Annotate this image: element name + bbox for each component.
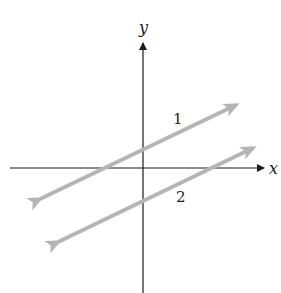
line-2-label: 2 — [176, 188, 186, 206]
x-axis-label: x — [269, 159, 278, 178]
line-1 — [40, 105, 236, 199]
y-axis-label: y — [138, 18, 149, 37]
line-2 — [58, 148, 253, 242]
coordinate-diagram: y x 1 2 — [0, 0, 281, 293]
diagram-canvas: y x 1 2 — [0, 0, 281, 293]
line-1-label: 1 — [173, 110, 183, 128]
